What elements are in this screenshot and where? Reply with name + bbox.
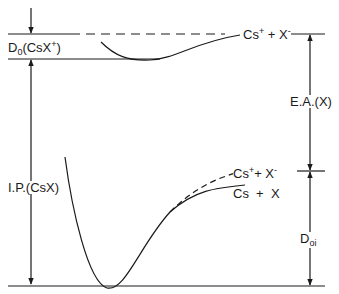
ground-curve: [65, 157, 245, 288]
neutral-label: Cs + X: [233, 187, 280, 200]
ip-label: I.P.(CsX): [8, 181, 59, 194]
cation-curve: [101, 35, 240, 60]
d0-cation-label: D0(CsX+): [8, 40, 61, 57]
ion-limit-label: Cs+ + X-: [243, 27, 291, 41]
ion-pair-label: Cs++ X-: [233, 166, 277, 180]
ea-label: E.A.(X): [290, 95, 332, 108]
d0i-label: Doi: [300, 232, 316, 248]
